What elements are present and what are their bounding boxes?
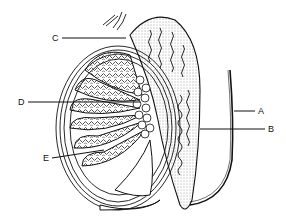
label-a: A xyxy=(258,107,264,116)
label-c: C xyxy=(52,34,59,43)
lobules xyxy=(70,52,145,166)
label-d: D xyxy=(18,98,25,107)
diagram-canvas: A B C D E xyxy=(0,0,286,221)
cord-lines xyxy=(103,12,126,30)
label-e: E xyxy=(43,154,49,163)
label-b: B xyxy=(268,125,274,134)
testis-diagram xyxy=(0,0,286,221)
